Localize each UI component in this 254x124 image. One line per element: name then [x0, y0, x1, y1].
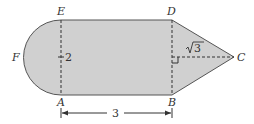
point-label-d: D: [166, 5, 176, 18]
measure-ae-label: 2: [65, 51, 72, 64]
composite-figure-diagram: E D F C A B 2 3 3: [0, 0, 254, 124]
arrowhead-left-icon: [62, 111, 68, 116]
point-label-b: B: [167, 96, 176, 109]
measure-ab-label: 3: [112, 107, 119, 120]
point-label-e: E: [56, 5, 65, 18]
point-label-f: F: [11, 51, 20, 64]
point-label-c: C: [237, 51, 246, 64]
point-label-a: A: [56, 96, 65, 109]
measure-altitude-radicand: 3: [194, 42, 201, 55]
arrowhead-right-icon: [165, 111, 171, 116]
